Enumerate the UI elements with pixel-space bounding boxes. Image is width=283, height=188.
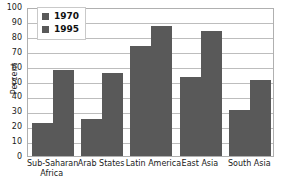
y-tick-label: 70 bbox=[12, 49, 22, 57]
y-tick-label: 10 bbox=[12, 138, 22, 146]
bar-1995 bbox=[201, 31, 222, 156]
bar-1970 bbox=[81, 119, 102, 156]
x-axis-tick-labels: Sub-SaharanAfricaArab StatesLatin Americ… bbox=[27, 159, 274, 187]
bar-1995 bbox=[53, 70, 74, 156]
bar-1970 bbox=[130, 46, 151, 156]
bar-chart: Percent 1009080706050403020100 1970 1995… bbox=[0, 0, 283, 188]
x-tick-label-line: Arab States bbox=[76, 159, 125, 169]
legend: 1970 1995 bbox=[37, 7, 86, 40]
x-tick-label-line: Latin America bbox=[126, 159, 175, 169]
y-tick-label: 100 bbox=[7, 4, 22, 12]
y-tick-label: 30 bbox=[12, 108, 22, 116]
x-tick-label-line: South Asia bbox=[225, 159, 274, 169]
bar-1995 bbox=[250, 80, 271, 156]
x-tick-label: Sub-SaharanAfrica bbox=[27, 159, 76, 179]
y-tick-label: 50 bbox=[12, 79, 22, 87]
legend-label-1970: 1970 bbox=[54, 12, 79, 21]
y-tick-label: 90 bbox=[12, 19, 22, 27]
y-tick-label: 60 bbox=[12, 64, 22, 72]
x-tick-label: Arab States bbox=[76, 159, 125, 169]
bar-1970 bbox=[180, 77, 201, 156]
x-tick-label: East Asia bbox=[175, 159, 224, 169]
x-tick-label-line: Sub-Saharan bbox=[27, 159, 76, 169]
legend-swatch-1995-icon bbox=[42, 26, 49, 33]
y-tick-label: 20 bbox=[12, 123, 22, 131]
legend-swatch-1970-icon bbox=[42, 13, 49, 20]
y-axis-tick-labels: 1009080706050403020100 bbox=[0, 8, 24, 157]
bar-1995 bbox=[102, 73, 123, 156]
bar-1970 bbox=[32, 123, 53, 156]
y-tick-label: 80 bbox=[12, 34, 22, 42]
legend-label-1995: 1995 bbox=[54, 25, 79, 34]
x-tick-label: South Asia bbox=[225, 159, 274, 169]
y-tick-label: 0 bbox=[17, 153, 22, 161]
legend-entry-1995: 1995 bbox=[42, 23, 79, 36]
legend-entry-1970: 1970 bbox=[42, 10, 79, 23]
x-tick-label-line: East Asia bbox=[175, 159, 224, 169]
x-tick-label: Latin America bbox=[126, 159, 175, 169]
bar-group bbox=[176, 9, 225, 156]
bar-group bbox=[127, 9, 176, 156]
bar-1995 bbox=[151, 26, 172, 156]
bar-1970 bbox=[229, 110, 250, 156]
x-tick-label-line: Africa bbox=[27, 169, 76, 179]
bar-group bbox=[226, 9, 275, 156]
y-tick-label: 40 bbox=[12, 93, 22, 101]
